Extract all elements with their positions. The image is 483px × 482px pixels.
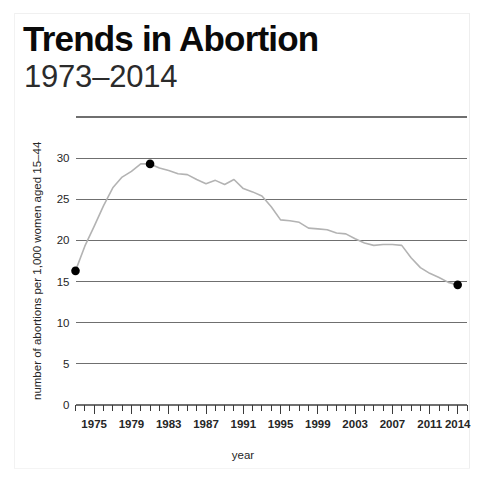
data-point-marker-peak (146, 160, 155, 169)
x-tick-label-1983: 1983 (156, 418, 182, 430)
x-tick-label-2011: 2011 (417, 418, 443, 430)
x-tick-label-2003: 2003 (342, 418, 368, 430)
data-point-markers-group (71, 160, 462, 290)
chart-plot-area: 051015202530 197519791983198719911995199… (0, 0, 483, 482)
y-tick-label-25: 25 (57, 193, 70, 205)
data-point-marker-start (71, 267, 80, 276)
x-tick-label-1991: 1991 (230, 418, 256, 430)
x-axis-title: year (232, 449, 255, 461)
chart-card: Trends in Abortion 1973–2014 05101520253… (0, 0, 483, 482)
x-tick-label-1999: 1999 (305, 418, 331, 430)
gridlines-group (76, 117, 468, 405)
x-tick-label-1979: 1979 (119, 418, 145, 430)
data-point-marker-end (453, 281, 462, 290)
y-axis-title: number of abortions per 1,000 women aged… (31, 141, 43, 400)
y-tick-label-10: 10 (57, 317, 70, 329)
line-chart: 051015202530 197519791983198719911995199… (0, 0, 483, 482)
data-line-abortion-rate (76, 164, 458, 285)
x-tick-label-2014: 2014 (445, 418, 471, 430)
x-tick-label-1975: 1975 (81, 418, 107, 430)
x-axis-tick-labels-group: 1975197919831987199119951999200320072011… (81, 418, 471, 430)
x-tick-label-1995: 1995 (268, 418, 294, 430)
x-tick-label-2007: 2007 (380, 418, 406, 430)
y-tick-label-0: 0 (63, 399, 69, 411)
x-tick-label-1987: 1987 (193, 418, 219, 430)
y-axis-tick-labels-group: 051015202530 (57, 152, 70, 411)
y-tick-label-15: 15 (57, 276, 70, 288)
x-axis-ticks-group (76, 405, 468, 414)
y-tick-label-20: 20 (57, 234, 70, 246)
y-tick-label-30: 30 (57, 152, 70, 164)
y-tick-label-5: 5 (63, 358, 69, 370)
